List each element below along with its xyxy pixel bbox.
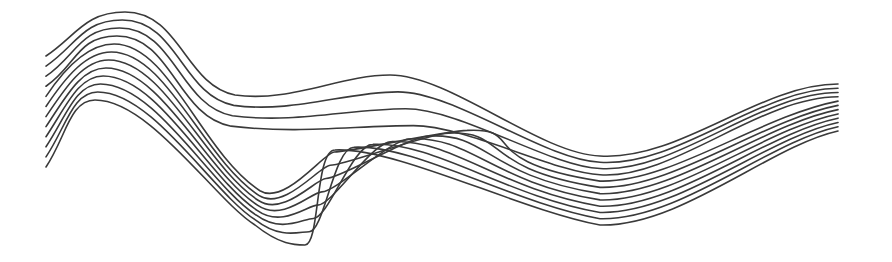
wave-lines-group: [46, 12, 838, 245]
wave-line: [46, 20, 838, 163]
wave-line: [46, 36, 838, 175]
wave-line: [46, 52, 838, 199]
wave-line: [46, 84, 838, 224]
wave-line: [46, 68, 838, 211]
wave-line: [46, 28, 838, 169]
wave-line: [46, 44, 838, 193]
wave-line-art: [0, 0, 892, 262]
